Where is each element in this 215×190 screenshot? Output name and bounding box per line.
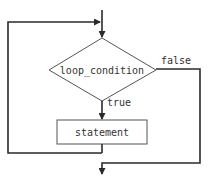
false-label: false: [161, 55, 191, 66]
while-loop-flowchart: loop_condition false true statement: [0, 0, 215, 190]
condition-label: loop_condition: [60, 65, 144, 77]
statement-label: statement: [75, 127, 129, 138]
true-label: true: [107, 97, 131, 108]
